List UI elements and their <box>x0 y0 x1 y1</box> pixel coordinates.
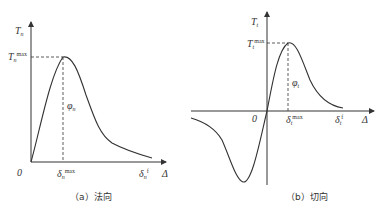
svg-text:Tn: Tn <box>15 25 24 37</box>
panel-b-tangential: Tt Ttmax φt 0 δtmax δtf Δ （b）切向 <box>191 12 374 202</box>
panel-a-normal: Tn Tnmax φn 0 δnmax δnf Δ （a）法向 <box>8 22 168 202</box>
caption-a: （a）法向 <box>70 191 112 202</box>
svg-text:δtf: δtf <box>335 114 343 126</box>
svg-text:φt: φt <box>292 77 300 89</box>
traction-curve <box>31 57 152 162</box>
svg-text:δtmax: δtmax <box>286 114 303 126</box>
svg-text:Tnmax: Tnmax <box>8 51 27 63</box>
caption-b: （b）切向 <box>286 191 328 202</box>
svg-text:0: 0 <box>17 167 22 178</box>
svg-text:Δ: Δ <box>161 168 168 179</box>
svg-text:Δ: Δ <box>361 114 368 125</box>
svg-text:δnmax: δnmax <box>57 168 75 180</box>
svg-text:Ttmax: Ttmax <box>247 38 265 50</box>
traction-separation-diagram: Tn Tnmax φn 0 δnmax δnf Δ （a）法向 Tt Ttmax… <box>0 0 382 210</box>
svg-text:δnf: δnf <box>139 168 149 180</box>
svg-text:0: 0 <box>252 113 257 124</box>
svg-text:φn: φn <box>67 100 76 112</box>
svg-text:Tt: Tt <box>251 16 259 28</box>
